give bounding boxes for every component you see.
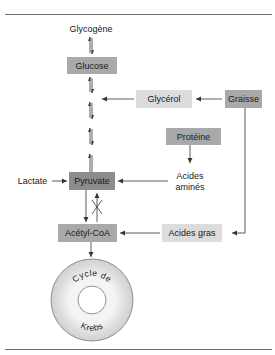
pyruvate-box: Pyruvate: [69, 172, 115, 190]
blocked-reverse-arrow: [92, 193, 102, 222]
acides-amines-line1: Acides: [170, 171, 210, 182]
glycerol-box: Glycérol: [136, 90, 192, 108]
acides-amines-line2: aminés: [170, 182, 210, 193]
graisse-box: Graisse: [225, 90, 262, 108]
glucose-box: Glucose: [67, 57, 117, 74]
acides-gras-box: Acides gras: [162, 224, 222, 242]
acetyl-coa-box: Acétyl-CoA: [58, 224, 117, 242]
glycogene-label: Glycogène: [66, 24, 116, 35]
proteine-box: Protéine: [166, 128, 221, 145]
acides-amines-label: Acides aminés: [170, 171, 210, 193]
glucose-pyruvate-reversible-arrows: [89, 77, 94, 172]
krebs-cycle-ring: Cycle de Krebs: [51, 259, 133, 341]
graisse-to-acides-gras-arrow: [232, 108, 245, 233]
lactate-label: Lactate: [15, 176, 50, 187]
glycogene-glucose-reversible-arrow: [89, 37, 94, 54]
